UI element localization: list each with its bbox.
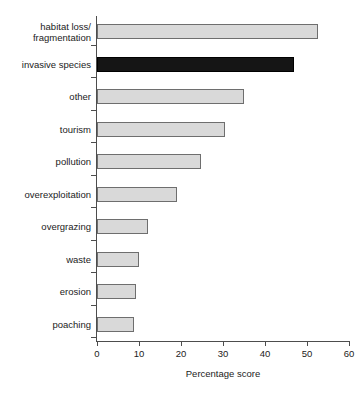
bar-rows: habitat loss/ fragmentationinvasive spec…: [0, 0, 364, 396]
category-label: poaching: [0, 319, 91, 330]
x-tick-label: 10: [119, 348, 159, 359]
x-tick-label: 40: [245, 348, 285, 359]
y-tick: [91, 272, 96, 273]
bar-row: invasive species: [0, 49, 364, 82]
y-tick: [91, 142, 96, 143]
x-tick-label: 50: [287, 348, 327, 359]
bar-row: tourism: [0, 114, 364, 147]
bar-row: overgrazing: [0, 211, 364, 244]
horizontal-bar-chart: habitat loss/ fragmentationinvasive spec…: [0, 0, 364, 396]
y-tick: [91, 240, 96, 241]
category-label: waste: [0, 254, 91, 265]
y-tick: [91, 207, 96, 208]
bar-row: waste: [0, 244, 364, 277]
x-tick: [223, 341, 224, 346]
bar-pollution: [97, 154, 201, 169]
bar-invasive-species: [97, 57, 294, 72]
bar-erosion: [97, 284, 136, 299]
x-tick: [97, 341, 98, 346]
x-tick: [265, 341, 266, 346]
category-label: other: [0, 91, 91, 102]
bar-row: habitat loss/ fragmentation: [0, 16, 364, 49]
x-tick-label: 30: [203, 348, 243, 359]
bar-tourism: [97, 122, 225, 137]
bar-row: other: [0, 81, 364, 114]
x-tick: [181, 341, 182, 346]
category-label: overgrazing: [0, 221, 91, 232]
category-label: erosion: [0, 286, 91, 297]
x-tick: [349, 341, 350, 346]
y-tick: [91, 110, 96, 111]
y-tick: [91, 175, 96, 176]
x-axis-title: Percentage score: [97, 368, 349, 379]
category-label: pollution: [0, 156, 91, 167]
x-tick: [307, 341, 308, 346]
bar-row: poaching: [0, 309, 364, 342]
y-tick: [91, 77, 96, 78]
y-tick: [91, 45, 96, 46]
bar-row: overexploitation: [0, 179, 364, 212]
x-tick: [139, 341, 140, 346]
x-tick-label: 60: [329, 348, 364, 359]
x-tick-label: 20: [161, 348, 201, 359]
bar-other: [97, 89, 244, 104]
bar-overgrazing: [97, 219, 148, 234]
bar-row: erosion: [0, 276, 364, 309]
bar-habitat-loss-fragmentation: [97, 24, 318, 39]
x-tick-label: 0: [77, 348, 117, 359]
category-label: tourism: [0, 124, 91, 135]
y-tick: [91, 337, 96, 338]
y-tick: [91, 305, 96, 306]
category-label: habitat loss/ fragmentation: [0, 21, 91, 43]
category-label: invasive species: [0, 59, 91, 70]
category-label: overexploitation: [0, 189, 91, 200]
bar-poaching: [97, 317, 134, 332]
bar-overexploitation: [97, 187, 177, 202]
bar-row: pollution: [0, 146, 364, 179]
bar-waste: [97, 252, 139, 267]
